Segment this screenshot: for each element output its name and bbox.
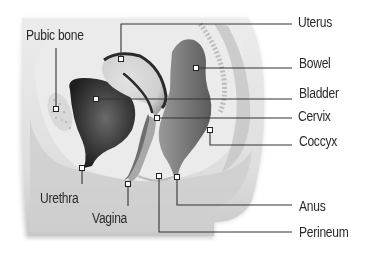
label-cervix: Cervix [298,108,331,124]
label-bladder: Bladder [299,85,339,101]
marker-pubic-bone [54,107,59,112]
label-vagina: Vagina [92,210,127,226]
marker-uterus [119,57,124,62]
label-uterus: Uterus [298,14,332,30]
pelvic-anatomy-diagram: Uterus Pubic bone Bowel Bladder Cervix C… [0,0,380,256]
label-bowel: Bowel [299,55,331,71]
marker-vagina [126,182,131,187]
label-pubic-bone: Pubic bone [26,27,84,43]
marker-urethra [80,166,85,171]
marker-cervix [155,116,160,121]
marker-bladder [94,97,99,102]
label-urethra: Urethra [40,190,78,206]
marker-coccyx [208,128,213,133]
marker-bowel [194,66,199,71]
label-anus: Anus [299,198,325,214]
marker-perineum [157,174,162,179]
label-perineum: Perineum [299,224,348,240]
label-coccyx: Coccyx [299,133,337,149]
marker-anus [175,175,180,180]
